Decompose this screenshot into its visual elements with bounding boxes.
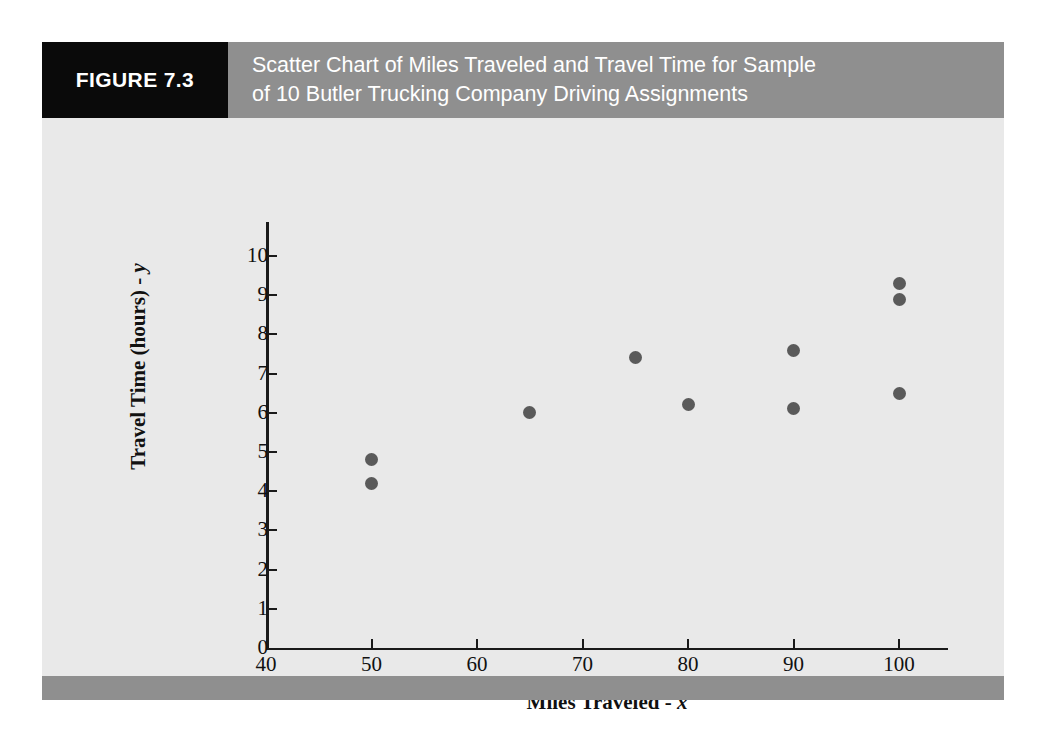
y-axis-title-text: Travel Time (hours) - xyxy=(126,273,150,470)
x-tick-mark xyxy=(687,639,689,648)
y-tick-mark xyxy=(268,490,277,492)
x-tick-label: 100 xyxy=(869,654,929,675)
x-tick-label: 70 xyxy=(553,654,613,675)
figure-number-label: FIGURE 7.3 xyxy=(76,68,194,92)
scatter-point xyxy=(893,277,906,290)
y-tick-label: 1 xyxy=(228,598,268,619)
x-tick-label: 40 xyxy=(236,654,296,675)
scatter-point xyxy=(893,387,906,400)
figure-title-line-2: of 10 Butler Trucking Company Driving As… xyxy=(252,80,990,109)
y-tick-mark xyxy=(268,529,277,531)
y-tick-label: 2 xyxy=(228,559,268,580)
y-tick-label: 9 xyxy=(228,284,268,305)
scatter-point xyxy=(893,293,906,306)
scatter-point xyxy=(787,402,800,415)
x-tick-label: 80 xyxy=(658,654,718,675)
figure-footer-band xyxy=(42,676,1004,700)
figure-header-band: FIGURE 7.3 Scatter Chart of Miles Travel… xyxy=(42,42,1004,118)
chart-plot-area: 012345678910 405060708090100 Travel Time… xyxy=(42,118,1004,676)
x-tick-mark xyxy=(582,639,584,648)
y-tick-label: 10 xyxy=(228,245,268,266)
figure-title: Scatter Chart of Miles Traveled and Trav… xyxy=(228,42,1004,118)
figure-container: FIGURE 7.3 Scatter Chart of Miles Travel… xyxy=(42,42,1004,700)
scatter-point xyxy=(682,398,695,411)
x-tick-label: 50 xyxy=(342,654,402,675)
y-tick-mark xyxy=(268,569,277,571)
y-tick-label: 3 xyxy=(228,519,268,540)
y-axis-title: Travel Time (hours) - y xyxy=(126,207,151,527)
y-tick-mark xyxy=(268,255,277,257)
x-tick-label: 60 xyxy=(447,654,507,675)
y-tick-label: 6 xyxy=(228,402,268,423)
y-tick-mark xyxy=(268,333,277,335)
scatter-point xyxy=(365,453,378,466)
x-tick-mark xyxy=(371,639,373,648)
x-tick-mark xyxy=(476,639,478,648)
page-root: FIGURE 7.3 Scatter Chart of Miles Travel… xyxy=(0,0,1055,742)
y-tick-mark xyxy=(268,412,277,414)
y-tick-mark xyxy=(268,608,277,610)
y-axis-title-variable: y xyxy=(126,263,150,272)
y-tick-mark xyxy=(268,451,277,453)
figure-number-badge: FIGURE 7.3 xyxy=(42,42,228,118)
y-tick-label: 8 xyxy=(228,323,268,344)
figure-title-line-1: Scatter Chart of Miles Traveled and Trav… xyxy=(252,51,990,80)
y-tick-mark xyxy=(268,294,277,296)
x-tick-label: 90 xyxy=(764,654,824,675)
y-tick-label: 5 xyxy=(228,441,268,462)
y-tick-mark xyxy=(268,373,277,375)
scatter-point xyxy=(365,477,378,490)
scatter-point xyxy=(523,406,536,419)
scatter-point xyxy=(787,344,800,357)
x-tick-mark xyxy=(793,639,795,648)
scatter-point xyxy=(629,351,642,364)
x-axis-line xyxy=(266,648,948,651)
y-tick-label: 7 xyxy=(228,363,268,384)
x-tick-mark xyxy=(898,639,900,648)
y-tick-label: 4 xyxy=(228,480,268,501)
